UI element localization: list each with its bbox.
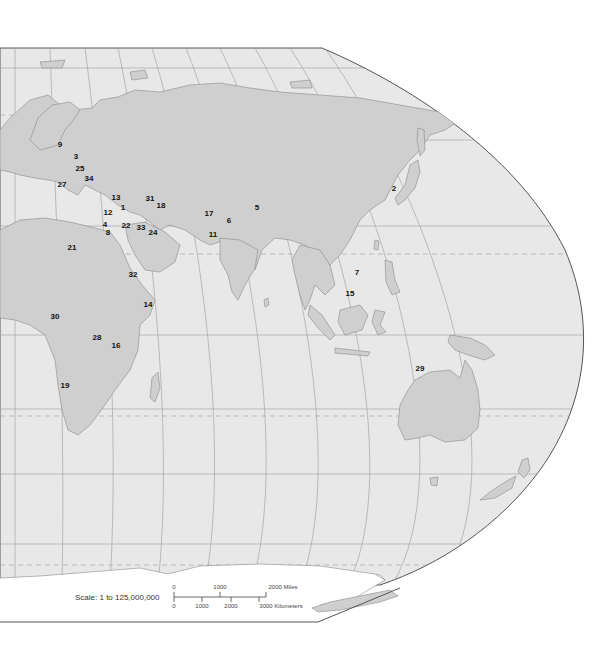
map-marker-30: 30 <box>51 313 60 321</box>
map-marker-32: 32 <box>129 271 138 279</box>
map-marker-14: 14 <box>144 301 153 309</box>
world-map <box>0 0 615 662</box>
map-marker-8: 8 <box>106 229 110 237</box>
map-marker-11: 11 <box>209 231 217 239</box>
map-marker-15: 15 <box>346 290 355 298</box>
scale-miles-tick-0: 0 <box>172 584 175 590</box>
map-marker-33: 33 <box>137 224 146 232</box>
taiwan <box>374 240 379 250</box>
arctic-island <box>130 70 148 80</box>
map-marker-5: 5 <box>255 204 259 212</box>
scale-km-tick-1000: 1000 <box>195 603 208 609</box>
map-marker-18: 18 <box>157 202 166 210</box>
map-marker-6: 6 <box>227 217 231 225</box>
map-marker-27: 27 <box>58 181 67 189</box>
map-marker-16: 16 <box>112 342 121 350</box>
map-marker-24: 24 <box>149 229 158 237</box>
map-marker-34: 34 <box>85 175 94 183</box>
map-marker-9: 9 <box>58 141 62 149</box>
scale-label: Scale: 1 to 125,000,000 <box>75 593 160 602</box>
scale-km-tick-2000: 2000 <box>224 603 237 609</box>
map-marker-13: 13 <box>112 194 121 202</box>
map-marker-3: 3 <box>74 153 78 161</box>
map-marker-1: 1 <box>121 204 125 212</box>
tasmania <box>430 477 438 486</box>
scale-miles-tick-1000: 1000 <box>213 584 226 590</box>
map-marker-29: 29 <box>416 365 425 373</box>
map-marker-19: 19 <box>61 382 70 390</box>
sri-lanka <box>264 298 269 307</box>
scale-km-tick-3000: 3000 Kilometers <box>259 603 302 609</box>
map-marker-2: 2 <box>392 185 396 193</box>
scale-miles-tick-2000: 2000 Miles <box>268 584 297 590</box>
map-marker-17: 17 <box>205 210 214 218</box>
map-marker-31: 31 <box>146 195 155 203</box>
map-marker-12: 12 <box>104 209 113 217</box>
map-marker-22: 22 <box>122 222 131 230</box>
map-marker-25: 25 <box>76 165 85 173</box>
scale-km-tick-0: 0 <box>172 603 175 609</box>
map-marker-7: 7 <box>355 269 359 277</box>
map-marker-28: 28 <box>93 334 102 342</box>
map-marker-21: 21 <box>68 244 77 252</box>
